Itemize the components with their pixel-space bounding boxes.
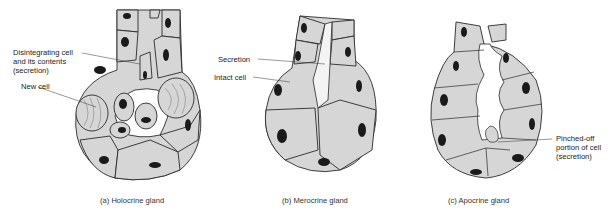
- caption-apocrine: (c) Apocrine gland: [448, 196, 509, 205]
- label-new-cell: New cell: [21, 82, 50, 91]
- label-line: Disintegrating cell: [13, 48, 73, 57]
- label-pinched-off-portion: Pinched-off portion of cell (secretion): [556, 134, 601, 161]
- label-line: and its contents: [13, 57, 73, 66]
- label-intact-cell: Intact cell: [214, 73, 246, 82]
- label-secretion: Secretion: [218, 55, 250, 64]
- holocrine-gland-illustration: [0, 0, 205, 216]
- label-line: (secretion): [556, 152, 601, 161]
- label-line: Intact cell: [214, 73, 246, 82]
- label-disintegrating-cell: Disintegrating cell and its contents (se…: [13, 48, 73, 75]
- label-line: (secretion): [13, 66, 73, 75]
- caption-merocrine: (b) Merocrine gland: [282, 196, 348, 205]
- apocrine-gland-panel: Pinched-off portion of cell (secretion) …: [406, 0, 616, 216]
- merocrine-gland-illustration: [200, 0, 410, 216]
- label-line: Pinched-off: [556, 134, 601, 143]
- holocrine-gland-panel: Disintegrating cell and its contents (se…: [0, 0, 205, 216]
- merocrine-gland-panel: Secretion Intact cell (b) Merocrine glan…: [200, 0, 410, 216]
- caption-holocrine: (a) Holocrine gland: [100, 196, 164, 205]
- label-line: Secretion: [218, 55, 250, 64]
- label-line: New cell: [21, 82, 50, 91]
- label-line: portion of cell: [556, 143, 601, 152]
- apocrine-gland-illustration: [406, 0, 616, 216]
